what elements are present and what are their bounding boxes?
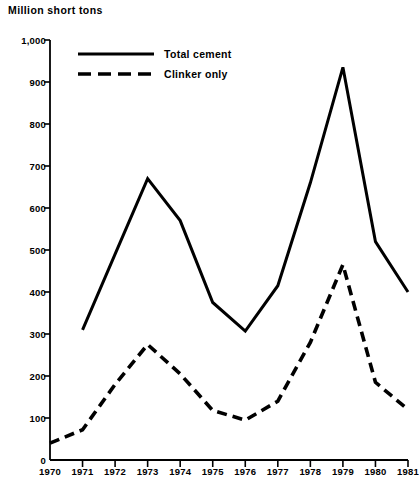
legend-item-clinker-only: Clinker only: [78, 64, 232, 84]
chart-axes: [44, 40, 408, 467]
legend-label-clinker-only: Clinker only: [164, 68, 228, 80]
series-line-total-cement: [83, 67, 408, 331]
legend-label-total-cement: Total cement: [164, 48, 232, 60]
legend-item-total-cement: Total cement: [78, 44, 232, 64]
series-line-clinker-only: [50, 265, 408, 444]
chart-legend: Total cement Clinker only: [78, 44, 232, 84]
chart-series: [50, 67, 408, 443]
